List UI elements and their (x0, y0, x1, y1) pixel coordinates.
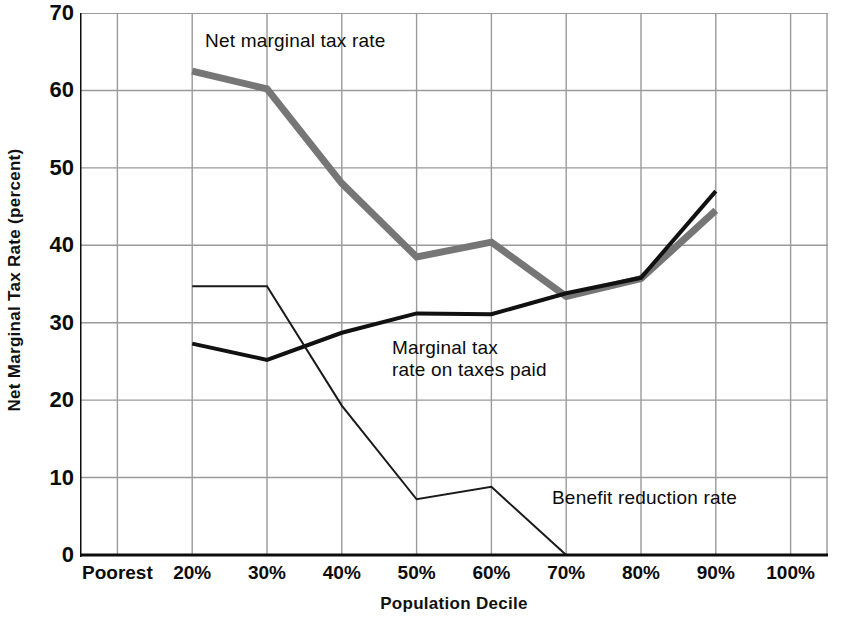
series-line (192, 71, 716, 296)
y-axis-tick-label: 40 (28, 234, 74, 256)
y-axis-tick-labels: 010203040506070 (22, 0, 74, 621)
x-axis-tick-label: 80% (622, 563, 660, 582)
x-axis-tick-label: Poorest (82, 563, 153, 582)
x-axis-tick-label: 70% (547, 563, 585, 582)
plot-svg (80, 13, 828, 557)
x-axis-tick-label: 20% (173, 563, 211, 582)
y-axis-tick-label: 10 (28, 467, 74, 489)
x-axis-tick-label: 30% (248, 563, 286, 582)
x-axis-tick-label: 40% (323, 563, 361, 582)
annotation-marginal-tax-rate-on-taxes-paid: Marginal tax rate on taxes paid (392, 337, 547, 381)
series-lines (192, 71, 716, 555)
y-axis-tick-label: 0 (28, 544, 74, 566)
x-axis-tick-label: 90% (697, 563, 735, 582)
vertical-gridlines (117, 13, 827, 555)
x-axis-title: Population Decile (80, 594, 828, 614)
y-axis-tick-label: 60 (28, 79, 74, 101)
y-axis-tick-label: 70 (28, 2, 74, 24)
y-axis-tick-label: 50 (28, 157, 74, 179)
y-axis-tick-label: 30 (28, 312, 74, 334)
x-axis-tick-label: 60% (472, 563, 510, 582)
chart-figure: Net Marginal Tax Rate (percent) 01020304… (0, 0, 841, 621)
y-axis-tick-label: 20 (28, 389, 74, 411)
series-line (192, 286, 716, 555)
x-axis-tick-label: 50% (398, 563, 436, 582)
x-axis-tick-label: 100% (766, 563, 815, 582)
plot-area (80, 13, 828, 557)
annotation-benefit-reduction-rate: Benefit reduction rate (552, 487, 737, 509)
annotation-net-marginal-tax-rate: Net marginal tax rate (205, 30, 386, 52)
series-line (192, 191, 716, 360)
